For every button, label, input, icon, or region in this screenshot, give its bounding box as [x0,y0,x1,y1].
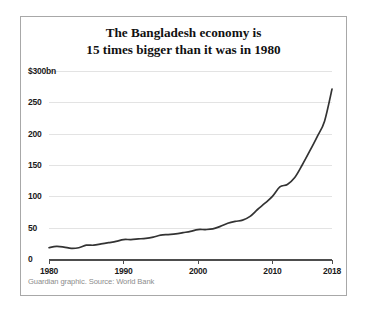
chart-card: The Bangladesh economy is 15 times bigge… [20,16,347,296]
chart-source-note: Guardian graphic. Source: World Bank [28,277,154,286]
line-series-bangladesh-gdp [21,17,348,297]
plot-area: $300bn250200150100500 198019902000201020… [21,17,348,297]
series-path [49,89,332,248]
